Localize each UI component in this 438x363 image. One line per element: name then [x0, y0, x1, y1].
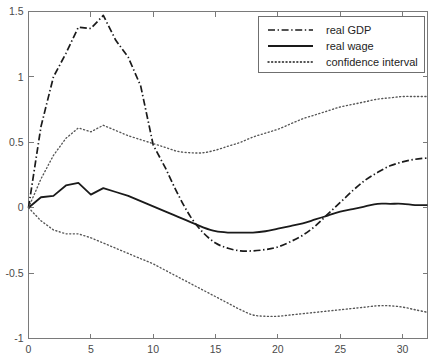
x-tick-label: 5 [88, 343, 94, 355]
y-tick-label: 0.5 [9, 136, 24, 148]
legend-label: confidence interval [326, 56, 418, 68]
series-confidence-upper [29, 96, 428, 207]
x-tick-label: 0 [26, 343, 32, 355]
legend-label: real GDP [326, 24, 371, 36]
y-axis-tick-labels: -1-0.500.511.5 [5, 5, 23, 344]
y-tick-label: -1 [14, 332, 23, 344]
chart-container: 051015202530 -1-0.500.511.5 real GDPreal… [0, 0, 438, 363]
legend-label: real wage [326, 40, 374, 52]
x-tick-label: 30 [397, 343, 409, 355]
x-tick-label: 10 [147, 343, 159, 355]
y-tick-label: -0.5 [5, 267, 23, 279]
y-tick-label: 1.5 [9, 5, 24, 17]
x-tick-label: 20 [272, 343, 284, 355]
chart-legend: real GDPreal wageconfidence interval [259, 17, 425, 73]
series-confidence-lower [29, 208, 428, 317]
y-tick-label: 0 [18, 201, 24, 213]
x-axis-tick-labels: 051015202530 [26, 343, 409, 355]
series-real-wage [29, 183, 428, 233]
impulse-response-chart: 051015202530 -1-0.500.511.5 real GDPreal… [0, 0, 438, 363]
x-tick-label: 25 [334, 343, 346, 355]
y-tick-label: 1 [18, 71, 24, 83]
x-tick-label: 15 [210, 343, 222, 355]
